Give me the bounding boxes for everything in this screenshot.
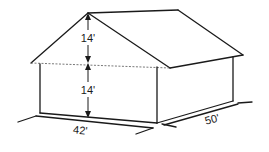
depth-dim-line <box>164 104 238 125</box>
arrow-down-icon <box>85 56 91 63</box>
depth-label: 50' <box>203 111 220 126</box>
depth-dim-tick-right <box>238 102 252 103</box>
roof-height-label: 14' <box>81 32 95 44</box>
gable-base-line <box>31 63 170 68</box>
gable-right-edge <box>88 13 170 68</box>
width-dim-tick-left <box>18 116 36 122</box>
roof-height-dimension: 14' <box>81 13 95 63</box>
side-roof <box>88 10 243 68</box>
side-wall-base <box>157 101 233 123</box>
depth-dimension: 50' <box>162 102 252 127</box>
arrow-up-icon <box>85 63 91 70</box>
front-gable <box>31 13 170 68</box>
roof-ridge <box>88 10 178 13</box>
roof-back-edge <box>178 10 243 55</box>
wall-height-label: 14' <box>81 84 95 96</box>
width-label: 42' <box>73 123 88 136</box>
width-dimension: 42' <box>18 116 153 137</box>
front-wall <box>40 64 157 123</box>
house-diagram: 14' 14' 42' 50' <box>0 0 269 152</box>
wall-height-dimension: 14' <box>81 63 95 118</box>
gable-left-edge <box>31 13 88 63</box>
width-dim-tick-right <box>136 128 153 134</box>
roof-eave <box>170 55 243 68</box>
